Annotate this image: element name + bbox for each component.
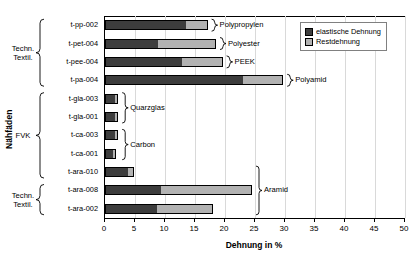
bar-segment-rest-t-pet-004 — [158, 40, 215, 48]
bar-segment-rest-t-pa-004 — [243, 76, 282, 84]
bar-t-gla-003 — [105, 94, 118, 104]
x-tick-30 — [284, 218, 285, 222]
legend-label-elastic: elastische Dehnung — [316, 27, 381, 36]
x-tick-label-10: 10 — [152, 224, 176, 233]
bar-segment-elastic-t-pet-004 — [106, 40, 158, 48]
x-tick-label-0: 0 — [92, 224, 116, 233]
x-tick-label-40: 40 — [332, 224, 356, 233]
bar-t-pet-004 — [105, 39, 216, 49]
category-label-t-pee-004: t-pee-004 — [66, 57, 98, 67]
x-tick-40 — [344, 218, 345, 222]
bar-t-gla-001 — [105, 112, 118, 122]
bar-segment-elastic-t-gla-003 — [106, 95, 115, 103]
bar-t-ca-003 — [105, 130, 118, 140]
bar-t-pp-002 — [105, 20, 208, 30]
category-label-t-ara-002: t-ara-002 — [68, 204, 98, 214]
bar-segment-rest-t-gla-001 — [115, 113, 118, 121]
bar-segment-elastic-t-ca-003 — [106, 131, 115, 139]
bar-segment-rest-t-ara-010 — [128, 168, 133, 176]
bar-t-pee-004 — [105, 57, 223, 67]
category-label-t-gla-003: t-gla-003 — [69, 94, 98, 104]
bar-segment-elastic-t-pa-004 — [106, 76, 243, 84]
bar-segment-elastic-t-pp-002 — [106, 21, 186, 29]
bar-t-ara-010 — [105, 167, 134, 177]
bar-segment-rest-t-ara-008 — [161, 186, 251, 194]
material-label-quarzglas: Quarzglas — [130, 103, 165, 112]
bar-segment-rest-t-ara-002 — [157, 205, 212, 213]
legend-label-rest: Restdehnung — [316, 37, 360, 46]
category-label-t-ca-001: t-ca-001 — [71, 149, 98, 159]
x-tick-label-20: 20 — [212, 224, 236, 233]
stacked-bar-chart: Nähfäden Techn. Textil. FVK Techn. Texti… — [0, 0, 416, 269]
gridline-50 — [405, 16, 406, 218]
legend-item-restdehnung: Restdehnung — [305, 37, 381, 46]
category-axis-labels: t-pp-002t-pet-004t-pee-004t-pa-004t-gla-… — [46, 16, 102, 218]
bar-t-ca-001 — [105, 149, 116, 159]
chart-legend: elastische Dehnung Restdehnung — [300, 22, 387, 51]
material-label-polypropylen: Polypropylen — [220, 20, 264, 29]
x-tick-0 — [104, 218, 105, 222]
x-tick-label-50: 50 — [392, 224, 416, 233]
material-label-peek: PEEK — [235, 57, 255, 66]
x-tick-45 — [374, 218, 375, 222]
x-tick-35 — [314, 218, 315, 222]
x-tick-label-30: 30 — [272, 224, 296, 233]
category-label-t-ca-003: t-ca-003 — [71, 130, 98, 140]
category-label-t-pet-004: t-pet-004 — [68, 39, 98, 49]
legend-item-elastische-dehnung: elastische Dehnung — [305, 27, 381, 36]
material-label-polyamid: Polyamid — [295, 75, 326, 84]
x-tick-15 — [194, 218, 195, 222]
x-tick-label-35: 35 — [302, 224, 326, 233]
category-label-t-ara-008: t-ara-008 — [68, 185, 98, 195]
x-tick-label-45: 45 — [362, 224, 386, 233]
bar-segment-rest-t-pp-002 — [186, 21, 207, 29]
bar-t-pa-004 — [105, 75, 283, 85]
legend-swatch-icon-rest — [305, 38, 313, 46]
x-tick-label-25: 25 — [242, 224, 266, 233]
x-tick-5 — [134, 218, 135, 222]
bar-segment-elastic-t-ara-010 — [106, 168, 128, 176]
bar-segment-elastic-t-ca-001 — [106, 150, 113, 158]
bar-segment-rest-t-ca-001 — [113, 150, 115, 158]
material-label-carbon: Carbon — [130, 140, 155, 149]
bar-segment-rest-t-ca-003 — [115, 131, 118, 139]
bar-segment-elastic-t-ara-008 — [106, 186, 161, 194]
x-tick-label-15: 15 — [182, 224, 206, 233]
category-label-t-ara-010: t-ara-010 — [68, 167, 98, 177]
bar-t-ara-008 — [105, 185, 252, 195]
legend-swatch-icon-elastic — [305, 28, 313, 36]
x-tick-20 — [224, 218, 225, 222]
bar-segment-elastic-t-gla-001 — [106, 113, 115, 121]
category-label-t-pp-002: t-pp-002 — [70, 20, 98, 30]
bar-segment-elastic-t-pee-004 — [106, 58, 182, 66]
x-axis-title: Dehnung in % — [104, 240, 404, 250]
bar-segment-elastic-t-ara-002 — [106, 205, 157, 213]
bar-segment-rest-t-gla-003 — [115, 95, 117, 103]
material-label-polyester: Polyester — [228, 39, 260, 48]
bar-segment-rest-t-pee-004 — [182, 58, 222, 66]
category-label-t-pa-004: t-pa-004 — [70, 75, 98, 85]
bar-t-ara-002 — [105, 204, 213, 214]
x-tick-label-5: 5 — [122, 224, 146, 233]
material-label-aramid: Aramid — [264, 185, 288, 194]
x-tick-50 — [404, 218, 405, 222]
category-label-t-gla-001: t-gla-001 — [69, 112, 98, 122]
x-tick-10 — [164, 218, 165, 222]
x-tick-25 — [254, 218, 255, 222]
